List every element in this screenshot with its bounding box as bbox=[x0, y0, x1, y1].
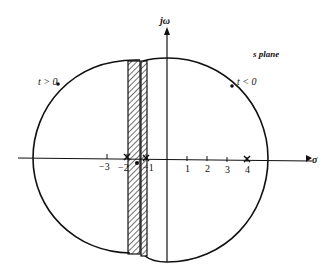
imaginary-axis-arrow-icon bbox=[164, 27, 170, 35]
y-axis-label: jω bbox=[160, 16, 170, 26]
tick-label-neg3: −3 bbox=[99, 162, 110, 172]
tick-label-1: 1 bbox=[185, 164, 190, 174]
shaded-strip-left bbox=[128, 61, 140, 254]
region-right-label: t < 0 bbox=[237, 77, 257, 87]
tick-label-3: 3 bbox=[225, 165, 230, 175]
contour-point-right bbox=[230, 84, 234, 88]
plane-label: s plane bbox=[253, 49, 279, 59]
tick-label-4: 4 bbox=[245, 165, 250, 175]
s-plane-diagram bbox=[0, 0, 334, 276]
zero-marker bbox=[135, 161, 139, 165]
region-left-label: t > 0 bbox=[38, 77, 58, 87]
x-axis-label: σ bbox=[312, 155, 317, 165]
tick-label-neg1: −1 bbox=[143, 163, 154, 173]
contour-left-arc bbox=[33, 60, 140, 253]
tick-label-neg2: −2 bbox=[118, 163, 129, 173]
tick-label-2: 2 bbox=[205, 164, 210, 174]
